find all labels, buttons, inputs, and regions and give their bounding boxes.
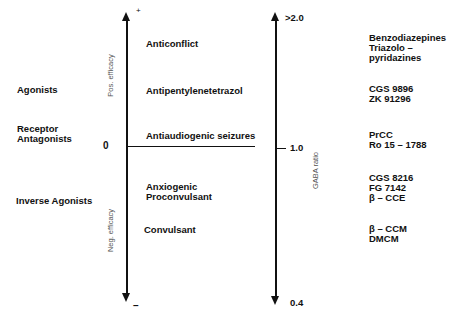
zero-baseline (126, 146, 255, 147)
gaba-bottom-label: 0.4 (290, 298, 303, 308)
gaba-axis-line (275, 20, 277, 298)
gaba-mid-tick (276, 148, 286, 149)
effect-antiaudiogenic-seizures: Antiaudiogenic seizures (146, 131, 255, 141)
effect-antipentylenetetrazol: Antipentylenetetrazol (146, 86, 243, 96)
minus-sign: – (133, 300, 139, 311)
compound-dmcm: DMCM (369, 234, 407, 244)
effect-convulsant: Convulsant (144, 225, 196, 235)
neg-efficacy-label: Neg. efficacy (106, 201, 115, 261)
effect-antipentylenetetrazol-text: Antipentylenetetrazol (146, 86, 243, 96)
compound-zk-91296: ZK 91296 (369, 94, 413, 104)
compounds-partial-agonists: CGS 9896 ZK 91296 (369, 84, 413, 104)
gaba-ratio-axis-title: GABA ratio (311, 146, 320, 196)
gaba-axis-down-arrow-icon (271, 296, 279, 305)
effect-convulsant-text: Convulsant (144, 225, 196, 235)
compounds-partial-inverse-agonists: CGS 8216 FG 7142 β – CCE (369, 173, 413, 203)
compounds-agonists: Benzodiazepines Triazolo – pyridazines (369, 33, 446, 63)
class-receptor-antagonists: Receptor Antagonists (17, 124, 72, 144)
efficacy-axis-line (126, 20, 128, 295)
gaba-mid-label: 1.0 (290, 143, 303, 153)
compounds-antagonists: PrCC Ro 15 – 1788 (369, 130, 427, 150)
class-agonists: Agonists (17, 85, 58, 95)
effect-antiaudiogenic-seizures-text: Antiaudiogenic seizures (146, 131, 255, 141)
pos-efficacy-label: Pos. efficacy (106, 46, 115, 106)
effect-anticonflict-text: Anticonflict (146, 39, 198, 49)
compounds-inverse-agonists: β – CCM DMCM (369, 224, 407, 244)
zero-label: 0 (103, 141, 109, 151)
class-inverse-agonists: Inverse Agonists (16, 196, 92, 206)
effect-anticonflict: Anticonflict (146, 39, 198, 49)
compound-pyridazines: pyridazines (369, 53, 446, 63)
compound-ro-15-1788: Ro 15 – 1788 (369, 140, 427, 150)
effect-proconvulsant-text: Proconvulsant (146, 192, 212, 202)
efficacy-axis-down-arrow-icon (122, 293, 130, 302)
effect-anxiogenic-proconvulsant: Anxiogenic Proconvulsant (146, 182, 212, 202)
compound-beta-cce: β – CCE (369, 193, 413, 203)
gaba-top-label: >2.0 (285, 13, 304, 23)
class-receptor-antagonists-line2: Antagonists (17, 134, 72, 144)
plus-sign: + (136, 6, 141, 15)
